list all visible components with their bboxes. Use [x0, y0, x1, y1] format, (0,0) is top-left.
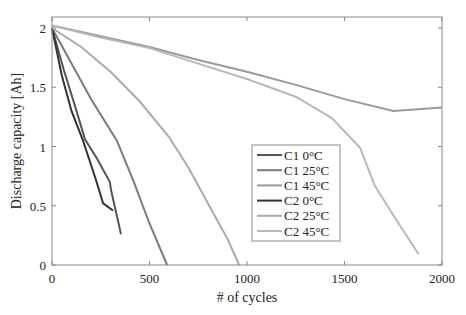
- legend-entry: C2 0°C: [284, 193, 323, 208]
- y-tick-label: 1: [40, 140, 47, 155]
- plot-lines: [52, 26, 442, 265]
- x-tick-label: 1000: [234, 271, 260, 286]
- axes-frame: [52, 17, 442, 265]
- x-tick-label: 500: [140, 271, 160, 286]
- series-line: [52, 26, 419, 255]
- x-axis-label: # of cycles: [217, 290, 278, 305]
- y-tick-label: 1.5: [30, 80, 46, 95]
- y-tick-label: 2: [40, 21, 47, 36]
- x-tick-label: 1500: [332, 271, 358, 286]
- legend-entry: C1 25°C: [284, 163, 329, 178]
- y-axis-label: Discharge capacity [Ah]: [9, 73, 24, 210]
- legend-entry: C1 45°C: [284, 178, 329, 193]
- legend-entry: C2 45°C: [284, 224, 329, 239]
- y-tick-label: 0.5: [30, 199, 46, 214]
- legend: C1 0°CC1 25°CC1 45°CC2 0°CC2 25°CC2 45°C: [252, 145, 340, 241]
- series-line: [52, 28, 167, 265]
- chart: 050010001500200000.511.52 # of cycles Di…: [0, 0, 466, 315]
- x-tick-label: 2000: [429, 271, 455, 286]
- y-tick-label: 0: [40, 258, 47, 273]
- legend-entry: C2 25°C: [284, 208, 329, 223]
- x-tick-label: 0: [49, 271, 56, 286]
- legend-entry: C1 0°C: [284, 148, 323, 163]
- series-line: [52, 26, 442, 111]
